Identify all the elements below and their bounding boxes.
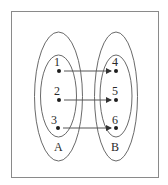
diagram-frame: [12, 12, 159, 178]
point-4: [114, 69, 118, 73]
label-2: 2: [54, 84, 60, 98]
label-3: 3: [51, 113, 57, 127]
label-1: 1: [54, 55, 60, 69]
label-4: 4: [112, 55, 118, 69]
point-1: [57, 69, 61, 73]
label-6: 6: [112, 113, 118, 127]
label-5: 5: [112, 84, 118, 98]
mapping-diagram: 1 2 3 4 5 6 A B: [0, 0, 168, 185]
set-b-label: B: [111, 140, 119, 154]
point-5: [114, 98, 118, 102]
set-a-label: A: [54, 140, 63, 154]
point-2: [57, 98, 61, 102]
